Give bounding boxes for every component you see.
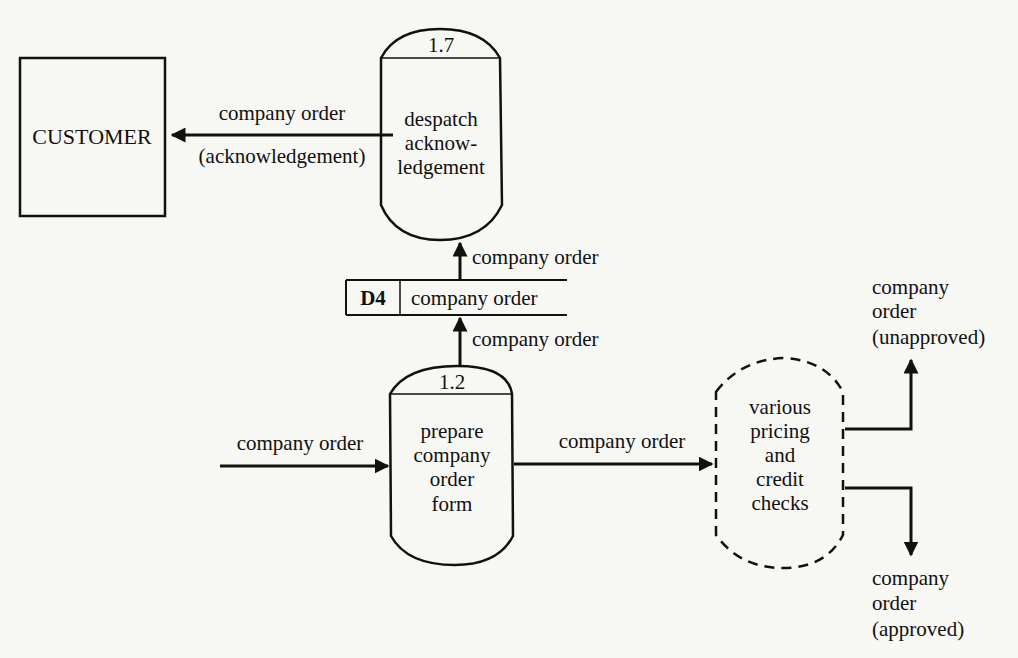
customer-label: CUSTOMER [32,124,152,149]
data-store-d4[interactable]: D4 company order [346,280,567,315]
flow-label: (unapproved) [872,325,985,349]
process-line: prepare [421,419,484,443]
process-line: credit [756,467,804,491]
flow-store-to-1-7[interactable]: company order [460,243,599,280]
process-pricing-and-credit-checks[interactable]: various pricing and credit checks [716,358,843,568]
flow-label: order [872,591,916,615]
flow-1-2-to-checks[interactable]: company order [514,429,712,464]
process-line: pricing [750,419,810,443]
flow-1-2-to-store[interactable]: company order [460,318,599,366]
flow-label-line1: company order [219,101,346,125]
process-line: acknow- [405,131,477,155]
external-entity-customer[interactable]: CUSTOMER [20,58,165,216]
flow-label: company order [472,245,599,269]
flow-label-line2: (acknowledgement) [199,144,366,168]
data-store-label: company order [411,286,538,310]
process-line: company [414,443,491,467]
flow-label: company order [472,327,599,351]
process-1-7-despatch-acknowledgement[interactable]: 1.7 despatch acknow- ledgement [381,29,502,240]
process-line: various [749,395,811,419]
flow-label: company [872,566,949,590]
process-id: 1.2 [439,370,465,394]
flow-label: company order [237,431,364,455]
process-line: despatch [404,107,478,131]
process-line: form [432,492,473,516]
flow-acknowledgement-to-customer[interactable]: company order (acknowledgement) [172,101,393,168]
flow-label: company [872,275,949,299]
data-store-id: D4 [360,286,386,310]
flow-label: company order [559,429,686,453]
data-flow-diagram: CUSTOMER company order (acknowledgement)… [0,0,1018,658]
flow-approved-output[interactable]: company order (approved) [845,488,964,641]
process-id: 1.7 [428,33,454,57]
process-1-2-prepare-company-order-form[interactable]: 1.2 prepare company order form [390,366,513,565]
process-line: ledgement [397,155,485,179]
flow-input-to-1-2[interactable]: company order [220,431,388,466]
flow-unapproved-output[interactable]: company order (unapproved) [845,275,985,429]
process-line: and [765,443,796,467]
process-line: order [430,467,474,491]
flow-label: (approved) [872,617,964,641]
flow-label: order [872,299,916,323]
process-line: checks [751,491,808,515]
